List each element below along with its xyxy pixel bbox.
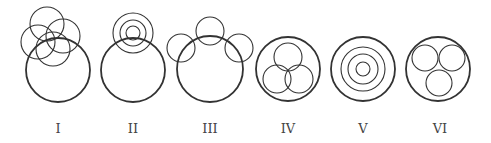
figure-label-vi: VI [432,121,448,136]
figure-label-iii: III [202,121,217,136]
figure-iv: IV [256,37,320,136]
inner-circle [426,70,452,96]
inner-circle [348,54,378,84]
inner-circle [412,45,438,71]
figure-v: V [331,37,395,136]
circle-diagram-figure: I II III IV V VI [0,0,491,143]
figure-ii: II [101,13,165,136]
outer-circle [177,36,243,102]
outer-circle [101,38,165,102]
figure-i: I [21,7,90,136]
inner-circle [46,19,80,53]
figure-label-iv: IV [281,121,296,136]
outer-circle [406,37,470,101]
figure-vi: VI [406,37,470,136]
inner-circle [120,20,146,46]
inner-circle [439,45,465,71]
inner-circle [113,13,153,53]
figure-label-i: I [55,121,60,136]
inner-circle [263,65,291,93]
figure-label-v: V [357,121,368,136]
inner-circle [225,34,253,62]
inner-circle [356,62,370,76]
inner-circle [285,65,313,93]
inner-circle [167,34,195,62]
inner-circle [196,17,224,45]
outer-circle [256,37,320,101]
figure-label-ii: II [128,121,138,136]
inner-circle [274,43,302,71]
figure-iii: III [167,17,253,136]
inner-circle [30,7,64,41]
